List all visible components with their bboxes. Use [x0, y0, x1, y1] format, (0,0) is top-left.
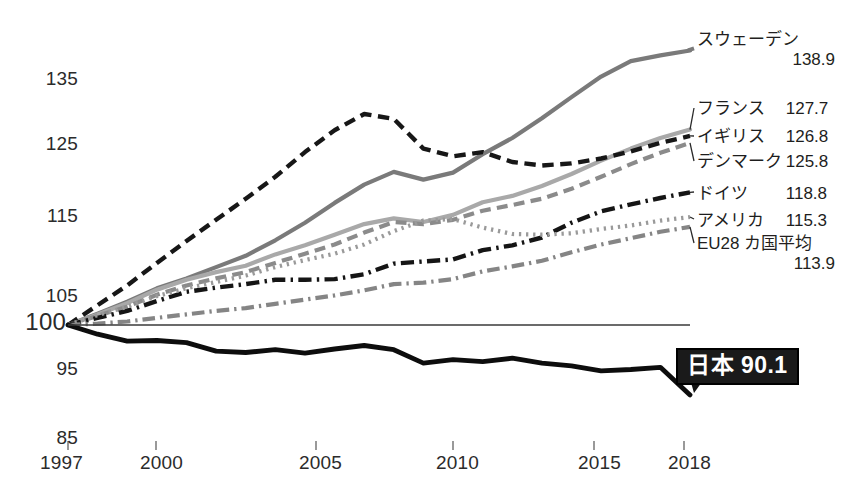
x-tick-1997: 1997: [40, 452, 83, 474]
series-label-uk-value: 126.8: [786, 127, 829, 146]
y-tick-95: 95: [8, 358, 78, 380]
series-label-uk: イギリス 126.8: [697, 127, 828, 146]
y-tick-125: 125: [8, 133, 78, 155]
leader-line: [690, 143, 694, 161]
series-label-france-value: 127.7: [786, 99, 829, 118]
series-label-usa-value: 115.3: [786, 211, 827, 230]
series-label-france-name: フランス: [697, 99, 781, 118]
x-tick-2015: 2015: [578, 452, 621, 474]
leader-line: [690, 108, 694, 130]
series-label-uk-name: イギリス: [697, 127, 781, 146]
series-label-eu28: EU28 カ国平均 113.9: [697, 234, 835, 273]
line-chart: 135 125 115 105 100 95 85 1997 2000 2005…: [0, 0, 841, 495]
y-tick-135: 135: [8, 68, 78, 90]
series-label-sweden-value: 138.9: [697, 50, 835, 70]
series-layer: [68, 51, 690, 395]
series-line: [68, 51, 690, 326]
series-line: [68, 325, 690, 395]
series-label-usa-name: アメリカ: [697, 211, 781, 230]
series-label-usa: アメリカ 115.3: [697, 211, 827, 230]
axis-layer: [68, 325, 690, 450]
y-tick-100: 100: [8, 308, 66, 336]
leader-line: [690, 227, 694, 243]
series-label-germany: ドイツ 118.8: [697, 184, 827, 203]
y-tick-105: 105: [8, 285, 78, 307]
series-label-sweden: スウェーデン 138.9: [697, 30, 835, 69]
series-label-denmark-value: 125.8: [786, 152, 829, 171]
series-label-eu28-value: 113.9: [697, 254, 835, 274]
series-label-denmark-name: デンマーク: [697, 152, 781, 171]
leader-line: [688, 48, 694, 50]
series-label-germany-name: ドイツ: [697, 184, 781, 203]
japan-highlight-badge: 日本 90.1: [676, 348, 799, 385]
series-label-germany-value: 118.8: [786, 184, 827, 203]
x-tick-2010: 2010: [436, 452, 479, 474]
series-label-eu28-name: EU28 カ国平均: [697, 234, 812, 253]
x-tick-2000: 2000: [140, 452, 183, 474]
series-label-france: フランス 127.7: [697, 99, 828, 118]
series-label-sweden-name: スウェーデン: [697, 30, 799, 49]
x-tick-2018: 2018: [668, 452, 711, 474]
series-label-denmark: デンマーク 125.8: [697, 152, 828, 171]
series-line: [68, 227, 690, 325]
y-tick-115: 115: [8, 205, 78, 227]
leader-line: [690, 217, 694, 219]
y-tick-85: 85: [8, 427, 78, 449]
x-tick-2005: 2005: [299, 452, 342, 474]
